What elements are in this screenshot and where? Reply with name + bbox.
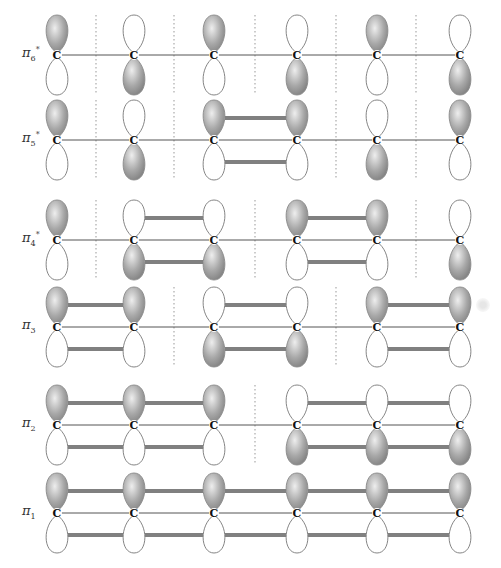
shaded-lobe-top — [286, 100, 308, 138]
orbital-row-pi1: CCCCCC — [46, 473, 471, 553]
orbital-label-pi2: π2 — [22, 415, 36, 433]
carbon-atom-label: C — [130, 234, 139, 247]
carbon-atom-label: C — [456, 507, 465, 520]
empty-lobe-bottom — [203, 57, 225, 95]
shaded-lobe-bottom — [449, 57, 471, 95]
empty-lobe-top — [123, 100, 145, 138]
carbon-atom-label: C — [456, 321, 465, 334]
shaded-lobe-top — [203, 385, 225, 423]
empty-lobe-bottom — [366, 329, 388, 367]
empty-lobe-bottom — [46, 515, 68, 553]
shaded-lobe-top — [123, 385, 145, 423]
carbon-atom-label: C — [130, 419, 139, 432]
shaded-lobe-bottom — [203, 242, 225, 280]
empty-lobe-bottom — [46, 242, 68, 280]
shaded-lobe-top — [123, 473, 145, 511]
shaded-lobe-top — [366, 287, 388, 325]
carbon-atom-label: C — [456, 134, 465, 147]
carbon-atom-label: C — [53, 234, 62, 247]
shaded-lobe-bottom — [286, 329, 308, 367]
shaded-lobe-bottom — [449, 242, 471, 280]
mo-diagram: CCCCCCCCCCCCCCCCCCCCCCCCCCCCCCCCCCCC — [0, 0, 501, 568]
empty-lobe-bottom — [46, 142, 68, 180]
empty-lobe-bottom — [449, 142, 471, 180]
empty-lobe-bottom — [123, 515, 145, 553]
empty-lobe-top — [286, 287, 308, 325]
carbon-atom-label: C — [210, 507, 219, 520]
empty-lobe-top — [203, 200, 225, 238]
empty-lobe-bottom — [286, 142, 308, 180]
carbon-atom-label: C — [210, 49, 219, 62]
shaded-lobe-top — [203, 473, 225, 511]
carbon-atom-label: C — [210, 419, 219, 432]
empty-lobe-bottom — [203, 427, 225, 465]
orbital-row-pi3: CCCCCC — [46, 287, 471, 367]
empty-lobe-top — [449, 385, 471, 423]
empty-lobe-top — [449, 200, 471, 238]
empty-lobe-bottom — [286, 515, 308, 553]
carbon-atom-label: C — [53, 134, 62, 147]
carbon-atom-label: C — [130, 134, 139, 147]
empty-lobe-top — [366, 385, 388, 423]
empty-lobe-bottom — [46, 57, 68, 95]
carbon-atom-label: C — [130, 49, 139, 62]
carbon-atom-label: C — [456, 419, 465, 432]
carbon-atom-label: C — [210, 321, 219, 334]
shaded-lobe-top — [286, 473, 308, 511]
carbon-atom-label: C — [456, 49, 465, 62]
orbital-row-pi4*: CCCCCC — [46, 200, 471, 280]
carbon-atom-label: C — [53, 419, 62, 432]
carbon-atom-label: C — [293, 49, 302, 62]
carbon-atom-label: C — [293, 507, 302, 520]
shaded-lobe-bottom — [366, 427, 388, 465]
empty-lobe-bottom — [46, 427, 68, 465]
carbon-atom-label: C — [373, 49, 382, 62]
empty-lobe-bottom — [366, 57, 388, 95]
empty-lobe-bottom — [366, 515, 388, 553]
empty-lobe-top — [286, 15, 308, 53]
carbon-atom-label: C — [53, 507, 62, 520]
shaded-lobe-top — [123, 287, 145, 325]
shaded-lobe-top — [46, 200, 68, 238]
carbon-atom-label: C — [293, 134, 302, 147]
shaded-lobe-top — [203, 15, 225, 53]
shaded-lobe-top — [449, 473, 471, 511]
carbon-atom-label: C — [373, 419, 382, 432]
empty-lobe-bottom — [449, 329, 471, 367]
shaded-lobe-top — [366, 15, 388, 53]
carbon-atom-label: C — [293, 234, 302, 247]
empty-lobe-bottom — [46, 329, 68, 367]
empty-lobe-top — [366, 100, 388, 138]
orbital-row-pi6*: CCCCCC — [46, 15, 471, 95]
shaded-lobe-bottom — [123, 57, 145, 95]
empty-lobe-bottom — [449, 515, 471, 553]
shaded-lobe-bottom — [123, 142, 145, 180]
empty-lobe-bottom — [123, 427, 145, 465]
shaded-lobe-top — [449, 287, 471, 325]
shaded-lobe-top — [366, 473, 388, 511]
carbon-atom-label: C — [456, 234, 465, 247]
shaded-lobe-bottom — [286, 427, 308, 465]
empty-lobe-top — [203, 287, 225, 325]
carbon-atom-label: C — [293, 419, 302, 432]
empty-lobe-top — [449, 15, 471, 53]
orbital-label-pi5*: π5* — [22, 130, 40, 148]
shaded-lobe-top — [46, 287, 68, 325]
shaded-lobe-top — [46, 100, 68, 138]
shaded-lobe-bottom — [203, 329, 225, 367]
move-handle-icon[interactable] — [476, 298, 490, 312]
carbon-atom-label: C — [293, 321, 302, 334]
empty-lobe-top — [286, 385, 308, 423]
orbital-row-pi2: CCCCCC — [46, 385, 471, 465]
shaded-lobe-top — [366, 200, 388, 238]
carbon-atom-label: C — [53, 49, 62, 62]
empty-lobe-bottom — [286, 242, 308, 280]
shaded-lobe-top — [449, 100, 471, 138]
orbital-label-pi4*: π4* — [22, 230, 40, 248]
carbon-atom-label: C — [210, 134, 219, 147]
carbon-atom-label: C — [373, 234, 382, 247]
carbon-atom-label: C — [130, 321, 139, 334]
empty-lobe-bottom — [366, 242, 388, 280]
carbon-atom-label: C — [373, 134, 382, 147]
shaded-lobe-bottom — [286, 57, 308, 95]
